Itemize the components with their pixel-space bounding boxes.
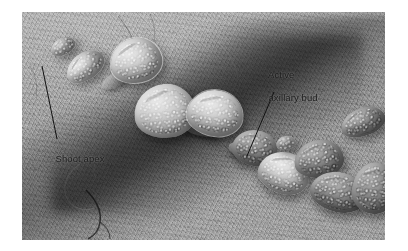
shoot-apex-leader-segment	[42, 66, 57, 139]
axillary-bud-label-line2: axillary bud	[268, 92, 317, 103]
shoot-apex-label-text: Shoot apex	[55, 153, 104, 164]
label-active-axillary-bud: Active axillary bud	[263, 57, 318, 103]
label-shoot-apex: Shoot apex	[50, 141, 105, 164]
axillary-bud-label-line1: Active	[268, 69, 294, 80]
leader-line-shoot-apex	[0, 0, 408, 251]
